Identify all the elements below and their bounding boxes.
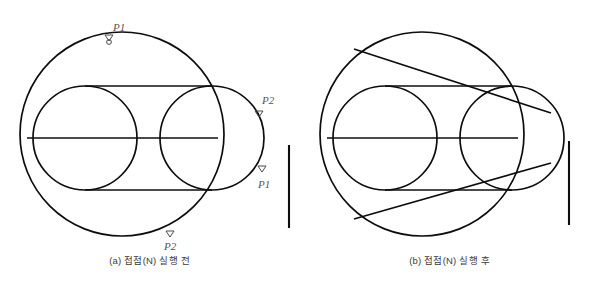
- figure-a-canvas: P1 P2 P1 P2: [0, 0, 299, 295]
- point-marker-p1-lower-right: [258, 166, 266, 172]
- caption-panel-b: (b) 접점(N) 실행 후: [300, 253, 599, 267]
- caption-panel-a: (a) 접점(N) 실행 전: [0, 253, 299, 267]
- point-label-p1-lower-right: P1: [257, 178, 270, 190]
- point-marker-p2-bottom: [166, 231, 174, 237]
- point-label-p2-bottom: P2: [163, 240, 177, 252]
- outer-tangent-lower-b: [354, 163, 551, 219]
- major-circle-b: [320, 32, 524, 236]
- point-label-p1-top: P1: [112, 21, 125, 33]
- outer-tangent-upper-b: [354, 49, 551, 113]
- figure-panel-b: (b) 접점(N) 실행 후: [300, 0, 599, 295]
- figure-panel-a: P1 P2 P1 P2 (a) 접점(N) 실행 전: [0, 0, 299, 295]
- figure-b-canvas: [300, 0, 599, 295]
- point-marker-p1-top: [105, 35, 113, 44]
- technical-drawing-sheet: P1 P2 P1 P2 (a) 접점(N) 실행 전: [0, 0, 599, 295]
- point-label-p2-right: P2: [261, 94, 275, 106]
- major-circle-a: [20, 32, 224, 236]
